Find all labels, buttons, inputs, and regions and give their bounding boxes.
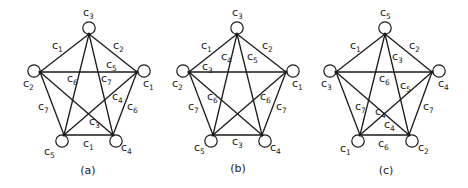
edge-label: c3	[89, 115, 100, 130]
panel-a: c3c2c1c5c4c1c2c5c6c7c7c6c3c4c1(a)	[23, 6, 154, 177]
edge-label: c7	[423, 100, 434, 115]
vertex-junction-dot	[87, 32, 90, 35]
vertex-label: c4	[121, 141, 132, 156]
edge-label: c7	[38, 100, 49, 115]
edge-label: c7	[355, 100, 366, 115]
vertex-label: c2	[23, 77, 34, 92]
vertex-br	[406, 135, 418, 147]
vertex-label: c5	[44, 145, 55, 160]
vertex-label: c3	[83, 6, 94, 21]
panel-c: c5c3c4c1c2c1c2c6c4c3c7c7c4c5c6(c)	[321, 6, 449, 177]
vertex-r	[433, 65, 445, 77]
vertex-label: c3	[232, 6, 243, 21]
vertex-junction-dot	[111, 133, 114, 136]
vertex-label: c1	[340, 142, 351, 157]
edge-label: c1	[350, 39, 361, 54]
vertex-junction-dot	[334, 70, 337, 73]
edge-label: c1	[52, 39, 63, 54]
vertex-junction-dot	[235, 32, 238, 35]
edge-label: c2	[409, 39, 420, 54]
edge-label: c7	[101, 72, 112, 87]
vertex-t	[83, 22, 95, 34]
vertex-r	[287, 65, 299, 77]
vertex-label: c3	[321, 77, 332, 92]
vertex-label: c2	[418, 141, 429, 156]
edge-l-br	[336, 72, 409, 135]
vertex-bl	[205, 135, 217, 147]
panel-caption: (c)	[379, 164, 394, 177]
edge-label: c3	[202, 60, 213, 75]
vertex-label: c1	[143, 77, 154, 92]
vertex-junction-dot	[135, 70, 138, 73]
vertex-junction-dot	[407, 133, 410, 136]
edge-label: c6	[260, 90, 271, 105]
vertex-junction-dot	[38, 70, 41, 73]
vertex-bl	[352, 135, 364, 147]
vertex-label: c5	[194, 141, 205, 156]
vertex-l	[28, 65, 40, 77]
edge-label: c3	[232, 135, 243, 150]
edge-label: c5	[106, 58, 117, 73]
panel-b: c3c2c1c5c4c1c2c3c4c5c7c7c6c6c3(b)	[172, 6, 303, 175]
vertex-label: c4	[270, 141, 281, 156]
vertex-junction-dot	[383, 32, 386, 35]
edge-label: c1	[83, 137, 94, 152]
edge-label: c7	[188, 100, 199, 115]
edge-label: c1	[201, 39, 212, 54]
edge-label: c5	[247, 50, 258, 65]
vertex-junction-dot	[430, 70, 433, 73]
vertex-label: c2	[172, 77, 183, 92]
vertex-junction-dot	[211, 133, 214, 136]
vertex-t	[379, 22, 391, 34]
vertex-junction-dot	[284, 70, 287, 73]
edge-label: c2	[262, 39, 273, 54]
vertex-junction-dot	[62, 133, 65, 136]
edge-label: c6	[379, 72, 390, 87]
edge-label: c6	[207, 90, 218, 105]
vertex-bl	[56, 135, 68, 147]
vertex-r	[138, 65, 150, 77]
vertex-label: c4	[438, 77, 449, 92]
panel-caption: (b)	[230, 162, 246, 175]
vertex-junction-dot	[260, 133, 263, 136]
edge-label: c4	[384, 118, 395, 133]
vertex-label: c1	[292, 77, 303, 92]
figure-canvas: c3c2c1c5c4c1c2c5c6c7c7c6c3c4c1(a) c3c2c1…	[0, 0, 468, 188]
edge-label: c6	[127, 100, 138, 115]
vertex-junction-dot	[187, 70, 190, 73]
edge-label: c6	[67, 72, 78, 87]
panel-caption: (a)	[80, 164, 95, 177]
edge-label: c7	[276, 100, 287, 115]
edge-label: c2	[113, 39, 124, 54]
vertex-junction-dot	[358, 133, 361, 136]
edge-r-br	[113, 72, 137, 135]
edge-label: c5	[400, 79, 411, 94]
edge-label: c3	[392, 50, 403, 65]
edge-label: c4	[221, 50, 232, 65]
vertex-l	[177, 65, 189, 77]
vertex-l	[324, 65, 336, 77]
vertex-t	[231, 22, 243, 34]
edge-label: c6	[378, 137, 389, 152]
edge-label: c4	[112, 90, 123, 105]
vertex-label: c5	[380, 6, 391, 21]
